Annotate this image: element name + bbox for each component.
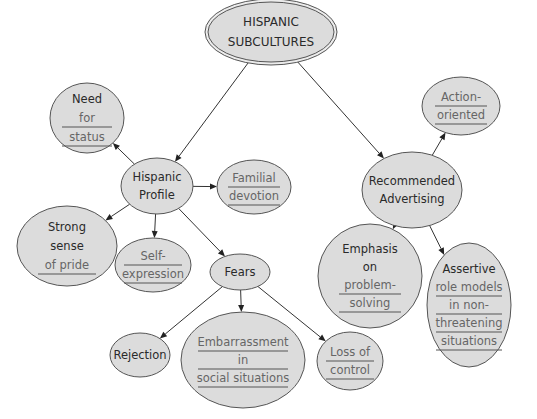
edge-line xyxy=(118,148,135,164)
node-label-line: Self- xyxy=(140,249,165,263)
arrowhead-icon xyxy=(105,214,112,220)
edge-profile-to-fears xyxy=(179,208,225,256)
node-label-line: Fears xyxy=(225,265,256,279)
node-fears: Fears xyxy=(210,254,270,290)
arrowhead-icon xyxy=(238,305,244,312)
edge-root-to-profile xyxy=(175,60,250,161)
edge-line xyxy=(111,204,129,216)
node-profile: HispanicProfile xyxy=(121,158,193,214)
edge-profile-to-pride xyxy=(105,204,129,220)
node-label-line: on xyxy=(363,260,377,274)
arrowhead-icon xyxy=(152,231,158,238)
node-label-line: HISPANIC xyxy=(243,15,299,29)
node-label-line: expression xyxy=(122,267,184,281)
edge-advert-to-action xyxy=(432,133,445,156)
node-label-line: Profile xyxy=(139,188,175,202)
edge-fears-to-embarrass xyxy=(238,290,244,312)
node-rejection: Rejection xyxy=(110,333,170,377)
node-label-line: Need xyxy=(72,92,102,106)
node-label-line: Recommended xyxy=(369,174,455,188)
node-root: HISPANICSUBCULTURES xyxy=(205,0,337,65)
node-embarrass: Embarrassmentinsocial situations xyxy=(181,312,305,408)
node-label-line: Embarrassment xyxy=(197,335,289,349)
node-label-line: problem- xyxy=(344,278,396,292)
node-label-line: social situations xyxy=(197,371,290,385)
node-label-line: devotion xyxy=(229,189,279,203)
node-selfexp: Self-expression xyxy=(115,238,191,292)
node-advert: RecommendedAdvertising xyxy=(362,152,462,228)
edge-profile-to-selfexp xyxy=(152,214,158,238)
node-label-line: threatening xyxy=(435,316,502,330)
concept-map: HISPANICSUBCULTURESHispanicProfileNeedfo… xyxy=(0,0,537,419)
node-label-line: Emphasis xyxy=(342,242,397,256)
node-label-line: status xyxy=(69,130,104,144)
node-label-line: Familial xyxy=(232,171,276,185)
edge-profile-to-status xyxy=(113,143,135,164)
node-label-line: oriented xyxy=(437,108,485,122)
arrowhead-icon xyxy=(318,335,325,342)
edge-line xyxy=(179,208,220,251)
node-label-line: Action- xyxy=(441,90,481,104)
node-label-line: situations xyxy=(441,334,497,348)
node-label-line: Assertive xyxy=(442,262,495,276)
node-label-line: Advertising xyxy=(379,192,444,206)
node-ellipse xyxy=(121,158,193,214)
node-label-line: of pride xyxy=(45,258,89,272)
node-assertive: Assertiverole modelsin non-threateningsi… xyxy=(427,243,511,367)
edge-root-to-advert xyxy=(296,60,384,159)
node-label-line: role models xyxy=(435,280,502,294)
node-pride: Strongsenseof pride xyxy=(17,206,117,286)
node-emphasis: Emphasisonproblem-solving xyxy=(318,224,422,328)
node-label-line: solving xyxy=(350,296,391,310)
node-label-line: SUBCULTURES xyxy=(228,35,314,49)
node-label-line: in xyxy=(238,353,248,367)
node-familial: Familialdevotion xyxy=(217,160,291,214)
node-label-line: Loss of xyxy=(330,345,371,359)
node-label-line: in non- xyxy=(449,298,489,312)
edge-profile-to-familial xyxy=(193,184,217,190)
arrowhead-icon xyxy=(439,133,445,141)
arrowhead-icon xyxy=(210,184,217,190)
node-label-line: sense xyxy=(50,239,83,253)
arrowhead-icon xyxy=(175,154,182,161)
node-status: Needforstatus xyxy=(50,83,124,153)
edge-line xyxy=(241,290,242,305)
node-ellipse xyxy=(362,152,462,228)
node-label-line: Rejection xyxy=(113,348,166,362)
node-action: Action-oriented xyxy=(422,77,500,135)
edge-line xyxy=(179,60,250,156)
node-label-line: Hispanic xyxy=(133,170,182,184)
nodes-layer: HISPANICSUBCULTURESHispanicProfileNeedfo… xyxy=(17,0,511,408)
node-label-line: for xyxy=(79,111,95,125)
node-label-line: Strong xyxy=(48,220,86,234)
edge-advert-to-assertive xyxy=(430,226,445,255)
edge-line xyxy=(296,60,380,154)
edge-line xyxy=(430,226,441,249)
node-ellipse xyxy=(208,2,334,62)
node-label-line: control xyxy=(330,363,370,377)
edge-line xyxy=(432,139,442,156)
edge-line xyxy=(155,214,156,231)
node-loss: Loss ofcontrol xyxy=(317,332,383,390)
